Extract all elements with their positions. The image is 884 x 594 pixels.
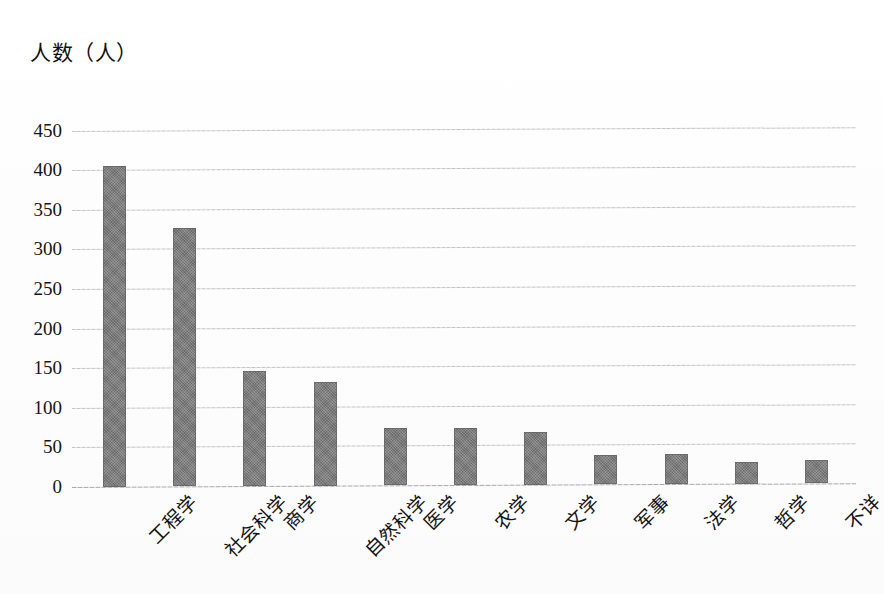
x-label-社会科学: 社会科学 bbox=[222, 492, 291, 561]
x-label-农学: 农学 bbox=[491, 492, 533, 534]
x-label-法学: 法学 bbox=[702, 492, 744, 534]
x-label-工程学: 工程学 bbox=[146, 492, 201, 547]
x-label-军事: 军事 bbox=[631, 492, 673, 534]
x-label-自然科学: 自然科学 bbox=[362, 492, 431, 561]
x-label-哲学: 哲学 bbox=[772, 492, 814, 534]
x-label-商学: 商学 bbox=[280, 492, 322, 534]
bar-chart: 人数（人） 450400350300250200150100500 工程学社会科… bbox=[0, 0, 884, 594]
x-label-医学: 医学 bbox=[421, 492, 463, 534]
x-label-不详: 不详 bbox=[842, 492, 884, 534]
x-label-文学: 文学 bbox=[561, 492, 603, 534]
x-axis-category-labels-group: 工程学社会科学商学自然科学医学农学文学军事法学哲学不详 bbox=[0, 0, 884, 594]
